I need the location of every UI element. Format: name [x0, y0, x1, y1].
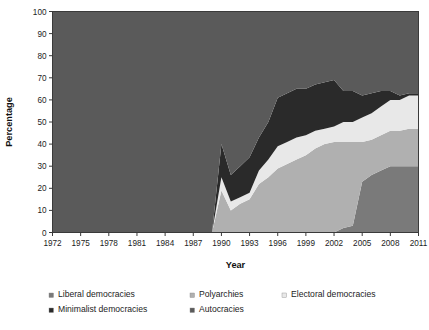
y-tick-label: 90 [37, 30, 47, 39]
y-tick-label: 50 [37, 118, 47, 127]
legend-label-polyarchies: Polyarchies [199, 289, 243, 299]
y-tick-label: 70 [37, 74, 47, 83]
stacked-area-chart-figure: 0102030405060708090100 19721975197819811… [0, 0, 429, 330]
chart-svg: 0102030405060708090100 19721975197819811… [0, 0, 429, 330]
y-tick-label: 100 [33, 8, 47, 17]
y-tick-label: 40 [37, 140, 47, 149]
x-tick-label: 2011 [410, 239, 428, 248]
x-tick-label: 1993 [240, 239, 259, 248]
x-axis-title: Year [226, 260, 246, 270]
y-tick-label: 10 [37, 206, 47, 215]
legend-label-autocracies: Autocracies [199, 304, 244, 314]
legend-item: Minimalist democracies [49, 304, 147, 314]
x-tick-label: 2005 [353, 239, 372, 248]
x-tick-label: 1990 [212, 239, 231, 248]
legend-item: Electoral democracies [282, 289, 376, 299]
y-tick-label: 0 [42, 229, 47, 238]
x-tick-label: 1978 [100, 239, 119, 248]
y-tick-label: 20 [37, 184, 47, 193]
x-tick-label: 1999 [297, 239, 316, 248]
legend-swatch-autocracies [190, 308, 195, 313]
legend-swatch-electoral-democracies [282, 293, 287, 298]
x-tick-label: 1984 [156, 239, 175, 248]
x-tick-label: 2008 [381, 239, 400, 248]
legend-swatch-liberal-democracies [49, 293, 54, 298]
legend-item: Autocracies [190, 304, 244, 314]
x-tick-label: 2002 [325, 239, 344, 248]
x-tick-label: 1975 [72, 239, 91, 248]
y-tick-label: 30 [37, 162, 47, 171]
legend-label-electoral-democracies: Electoral democracies [291, 289, 376, 299]
legend-swatch-minimalist-democracies [49, 308, 54, 313]
legend-label-minimalist-democracies: Minimalist democracies [58, 304, 147, 314]
x-tick-label: 1972 [43, 239, 62, 248]
y-tick-label: 60 [37, 96, 47, 105]
legend-swatch-polyarchies [190, 293, 195, 298]
x-tick-label: 1996 [269, 239, 288, 248]
legend-item: Liberal democracies [49, 289, 135, 299]
x-tick-label: 1981 [128, 239, 147, 248]
y-axis-title: Percentage [4, 97, 14, 147]
x-tick-label: 1987 [184, 239, 203, 248]
y-tick-label: 80 [37, 52, 47, 61]
plot-area-bands [53, 12, 419, 233]
legend-label-liberal-democracies: Liberal democracies [58, 289, 135, 299]
